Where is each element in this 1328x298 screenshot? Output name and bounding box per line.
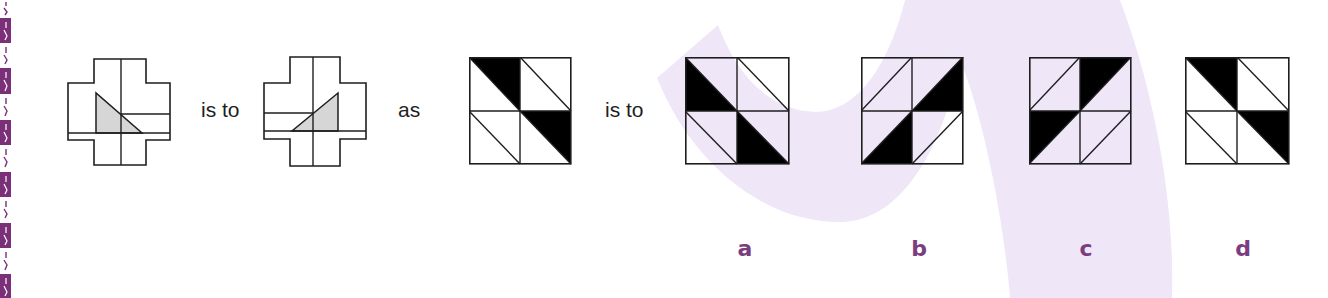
option-a-figure[interactable] [685,57,791,166]
connector-as: as [398,99,420,120]
option-label-d[interactable]: d [1228,238,1258,260]
option-label-a[interactable]: a [730,238,760,260]
option-label-b[interactable]: b [904,238,934,260]
option-b-figure[interactable] [861,57,966,166]
option-d-figure[interactable] [1185,57,1291,166]
figure-grid-3 [469,57,573,166]
option-label-c[interactable]: c [1071,238,1101,260]
connector-is-to-2: is to [605,99,644,120]
option-c-figure[interactable] [1029,57,1134,166]
analogy-puzzle: is to as is to [0,0,1328,298]
